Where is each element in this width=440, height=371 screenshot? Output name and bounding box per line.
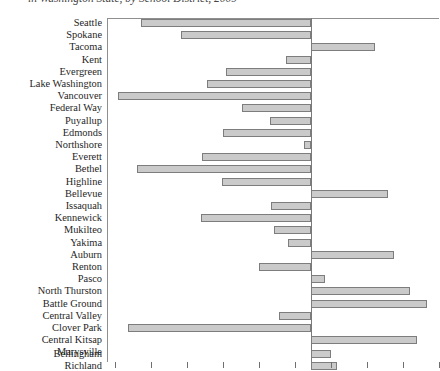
category-label-yakima: Yakima	[0, 237, 105, 248]
category-label-bethel: Bethel	[0, 163, 105, 174]
bar-pasco	[311, 275, 325, 283]
x-axis-tick-4	[259, 362, 260, 368]
category-label-lake-washington: Lake Washington	[0, 78, 105, 89]
bar-puyallup	[270, 117, 311, 125]
bar-seattle	[141, 19, 311, 27]
category-label-richland: Richland	[0, 360, 105, 371]
bar-issaquah	[271, 202, 311, 210]
x-axis-tick-1	[151, 362, 152, 368]
bar-northshore	[304, 141, 311, 149]
x-axis-tick-7	[331, 362, 332, 368]
bar-north-thurston	[311, 287, 410, 295]
x-axis-tick-8	[367, 362, 368, 368]
category-label-auburn: Auburn	[0, 249, 105, 260]
x-axis-ticks	[107, 362, 440, 371]
category-label-everett: Everett	[0, 151, 105, 162]
category-label-renton: Renton	[0, 261, 105, 272]
x-axis-tick-0	[115, 362, 116, 368]
category-label-kent: Kent	[0, 54, 105, 65]
bar-yakima	[288, 239, 311, 247]
bar-evergreen	[226, 68, 311, 76]
bar-auburn	[311, 251, 394, 259]
bar-spokane	[181, 31, 311, 39]
bar-battle-ground	[311, 300, 427, 308]
category-label-issaquah: Issaquah	[0, 200, 105, 211]
bar-vancouver	[118, 92, 311, 100]
bar-kent	[286, 56, 311, 64]
category-label-battle-ground: Battle Ground	[0, 298, 105, 309]
category-labels: SeattleSpokaneTacomaKentEvergreenLake Wa…	[0, 0, 105, 371]
bar-kennewick	[201, 214, 311, 222]
category-label-clover-park: Clover Park	[0, 322, 105, 333]
bar-central-valley	[279, 312, 311, 320]
bar-lake-washington	[207, 80, 311, 88]
bar-bellevue	[311, 190, 388, 198]
x-axis-tick-5	[295, 362, 296, 368]
category-label-bellingham: Bellingham	[0, 348, 105, 359]
bar-federal-way	[242, 104, 311, 112]
category-label-highline: Highline	[0, 176, 105, 187]
bar-mukilteo	[274, 226, 311, 234]
category-label-evergreen: Evergreen	[0, 66, 105, 77]
bar-bellingham	[311, 350, 331, 358]
bar-clover-park	[128, 324, 311, 332]
bar-central-kitsap	[311, 336, 417, 344]
category-label-federal-way: Federal Way	[0, 102, 105, 113]
bar-renton	[259, 263, 311, 271]
category-label-central-kitsap: Central Kitsap	[0, 334, 105, 345]
category-label-central-valley: Central Valley	[0, 310, 105, 321]
bar-edmonds	[223, 129, 311, 137]
category-label-puyallup: Puyallup	[0, 115, 105, 126]
category-label-kennewick: Kennewick	[0, 212, 105, 223]
bar-everett	[202, 153, 311, 161]
category-label-bellevue: Bellevue	[0, 188, 105, 199]
category-label-pasco: Pasco	[0, 273, 105, 284]
category-label-edmonds: Edmonds	[0, 127, 105, 138]
bar-highline	[222, 178, 311, 186]
category-label-north-thurston: North Thurston	[0, 285, 105, 296]
x-axis-tick-3	[223, 362, 224, 368]
category-label-northshore: Northshore	[0, 139, 105, 150]
category-label-vancouver: Vancouver	[0, 90, 105, 101]
category-label-seattle: Seattle	[0, 17, 105, 28]
x-axis-tick-9	[403, 362, 404, 368]
category-label-tacoma: Tacoma	[0, 41, 105, 52]
category-label-mukilteo: Mukilteo	[0, 224, 105, 235]
bar-tacoma	[311, 43, 375, 51]
bar-chart-figure: in Washington State, by School District,…	[0, 0, 440, 371]
x-axis-tick-2	[187, 362, 188, 368]
bar-bethel	[137, 165, 311, 173]
category-label-spokane: Spokane	[0, 29, 105, 40]
